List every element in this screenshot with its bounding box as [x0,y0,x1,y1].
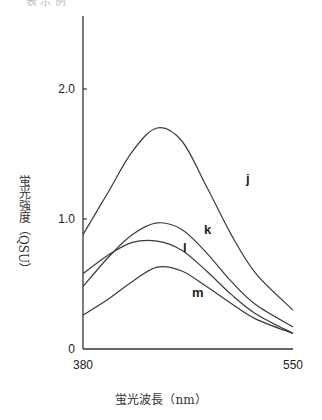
y-tick-label: 1.0 [58,212,75,226]
curve-label-m: m [192,285,204,300]
curve-label-l: l [183,240,187,255]
x-tick-label: 380 [73,358,93,372]
y-axis-label: 蛍光強度（QSU） [12,175,32,275]
curve-j [83,128,293,310]
x-axis-label: 蛍光波長（nm） [0,390,322,407]
curve-l [83,240,293,333]
chart-area: 01.02.0380550jklm [0,0,322,420]
curve-label-j: j [245,171,250,186]
curve-label-k: k [204,222,212,237]
curve-m [83,267,293,334]
y-tick-label: 2.0 [58,82,75,96]
x-tick-label: 550 [283,358,303,372]
y-tick-label: 0 [68,342,75,356]
